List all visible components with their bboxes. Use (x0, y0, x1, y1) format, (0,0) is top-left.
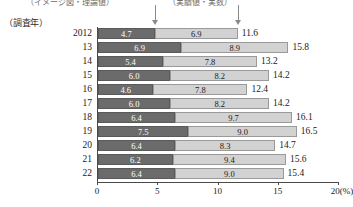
bar-segment-2: 8.3 (175, 140, 275, 151)
stacked-bar: 5.47.8 (98, 56, 257, 67)
row-year-label: 2012 (0, 28, 92, 39)
stacked-bar: 6.98.9 (98, 42, 288, 53)
bar-total-label: 14.2 (269, 98, 290, 109)
bar-row: 145.47.813.2 (0, 56, 344, 67)
row-year-label: 15 (0, 70, 92, 81)
stacked-bar: 6.49.0 (98, 168, 284, 179)
bar-segment-2: 8.2 (170, 70, 269, 81)
stacked-bar: 6.29.4 (98, 154, 286, 165)
bar-segment-1: 5.4 (98, 56, 163, 67)
stacked-bar: 6.49.7 (98, 112, 292, 123)
bar-segment-1: 4.7 (98, 28, 155, 39)
row-year-label: 19 (0, 126, 92, 137)
bar-total-label: 16.1 (292, 112, 313, 123)
bar-row: 216.29.415.6 (0, 154, 344, 165)
row-year-label: 20 (0, 140, 92, 151)
bar-total-label: 11.6 (238, 28, 258, 39)
stacked-bar: 6.08.2 (98, 70, 269, 81)
bar-segment-1: 6.0 (98, 70, 170, 81)
row-year-label: 16 (0, 84, 92, 95)
x-tick-mark (97, 182, 98, 185)
top-legend-strip: （イメージ図・理論値） （実績値・実数） (0, 0, 344, 6)
bar-row: 136.98.915.8 (0, 42, 344, 53)
top-legend-left-text: （イメージ図・理論値） (26, 0, 114, 6)
row-year-label: 14 (0, 56, 92, 67)
bar-segment-2: 9.4 (173, 154, 286, 165)
bar-segment-2: 8.9 (181, 42, 288, 53)
bar-row: 206.48.314.7 (0, 140, 344, 151)
bar-row: 164.67.812.4 (0, 84, 344, 95)
bar-total-label: 14.7 (275, 140, 296, 151)
bar-row: 20124.76.911.6 (0, 28, 344, 39)
x-tick-mark (338, 182, 339, 185)
bar-segment-2: 6.9 (155, 28, 238, 39)
x-tick-label: 10 (213, 186, 222, 196)
bar-segment-2: 8.2 (170, 98, 269, 109)
bar-row: 176.08.214.2 (0, 98, 344, 109)
bar-row: 197.59.016.5 (0, 126, 344, 137)
bar-total-label: 16.5 (297, 126, 318, 137)
bar-segment-1: 7.5 (98, 126, 188, 137)
row-year-label: 18 (0, 112, 92, 123)
bar-total-label: 15.4 (284, 168, 305, 179)
bar-row: 186.49.716.1 (0, 112, 344, 123)
arrow-head-icon (152, 20, 158, 25)
bar-segment-1: 6.4 (98, 168, 175, 179)
bar-total-label: 15.8 (288, 42, 309, 53)
bar-total-label: 14.2 (269, 70, 290, 81)
bar-total-label: 12.4 (247, 84, 268, 95)
bar-segment-1: 4.6 (98, 84, 153, 95)
x-tick-mark (157, 182, 158, 185)
stacked-bar: 6.48.3 (98, 140, 275, 151)
x-tick-label: 0 (95, 186, 100, 196)
x-tick-mark (278, 182, 279, 185)
bar-total-label: 15.6 (286, 154, 307, 165)
bar-segment-1: 6.9 (98, 42, 181, 53)
top-legend-right-text: （実績値・実数） (168, 0, 232, 6)
bar-segment-1: 6.4 (98, 112, 175, 123)
stacked-bar: 4.67.8 (98, 84, 247, 95)
x-tick-label: 20(%) (331, 186, 353, 196)
arrow-head-icon (235, 20, 241, 25)
stacked-bar: 6.08.2 (98, 98, 269, 109)
bar-row: 156.08.214.2 (0, 70, 344, 81)
bar-segment-1: 6.2 (98, 154, 173, 165)
bar-segment-2: 7.8 (163, 56, 257, 67)
x-tick-mark (218, 182, 219, 185)
row-year-label: 13 (0, 42, 92, 53)
stacked-bar: 4.76.9 (98, 28, 238, 39)
x-tick-label: 5 (155, 186, 160, 196)
stacked-bar: 7.59.0 (98, 126, 297, 137)
bar-segment-2: 9.0 (175, 168, 283, 179)
bar-segment-1: 6.4 (98, 140, 175, 151)
bar-segment-1: 6.0 (98, 98, 170, 109)
bar-segment-2: 9.0 (188, 126, 296, 137)
bar-total-label: 13.2 (257, 56, 278, 67)
row-year-label: 21 (0, 154, 92, 165)
x-tick-label: 15 (273, 186, 282, 196)
bar-segment-2: 9.7 (175, 112, 292, 123)
row-year-label: 22 (0, 168, 92, 179)
bar-segment-2: 7.8 (153, 84, 247, 95)
row-year-label: 17 (0, 98, 92, 109)
bar-row: 226.49.015.4 (0, 168, 344, 179)
